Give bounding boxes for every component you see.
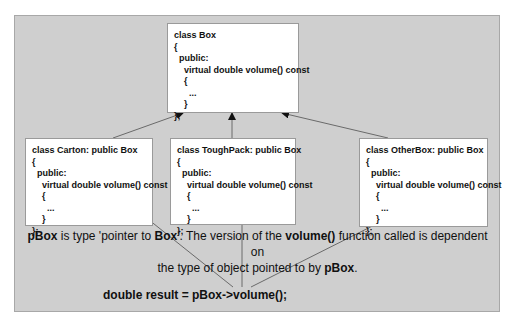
- caption-text: '. The version of the: [177, 229, 285, 243]
- code-line: {: [174, 76, 298, 88]
- code-line: {: [366, 157, 487, 169]
- term-box: Box: [155, 229, 178, 243]
- code-line: class Box: [174, 30, 298, 42]
- code-line: {: [177, 191, 295, 203]
- code-line: ...: [366, 203, 487, 215]
- class-box-toughpack: class ToughPack: public Box { public: vi…: [170, 138, 296, 225]
- term-pbox: pBox: [324, 261, 354, 275]
- code-line: public:: [174, 53, 298, 65]
- term-pbox: pBox: [28, 229, 58, 243]
- code-line: virtual double volume() const: [366, 180, 487, 192]
- caption-text: .: [354, 261, 357, 275]
- code-line: }: [174, 99, 298, 111]
- code-line: ...: [32, 203, 152, 215]
- code-line: public:: [32, 168, 152, 180]
- code-line: }: [366, 214, 487, 226]
- caption-line-1: pBox is type 'pointer to Box'. The versi…: [20, 228, 495, 260]
- code-line: ...: [174, 88, 298, 100]
- class-box-base: class Box { public: virtual double volum…: [167, 23, 299, 113]
- call-statement: double result = pBox->volume();: [103, 288, 287, 302]
- code-line: {: [32, 157, 152, 169]
- class-box-carton: class Carton: public Box { public: virtu…: [25, 138, 153, 226]
- code-line: }: [32, 214, 152, 226]
- explanation-caption: pBox is type 'pointer to Box'. The versi…: [20, 228, 495, 276]
- code-line: virtual double volume() const: [32, 180, 152, 192]
- code-line: ...: [177, 203, 295, 215]
- caption-line-2: the type of object pointed to by pBox.: [20, 260, 495, 276]
- code-line: }: [177, 214, 295, 226]
- caption-text: is type 'pointer to: [58, 229, 155, 243]
- code-line: {: [174, 42, 298, 54]
- code-line: class Carton: public Box: [32, 145, 152, 157]
- code-line: };: [174, 111, 298, 123]
- code-line: {: [177, 157, 295, 169]
- caption-text: the type of object pointed to by: [157, 261, 324, 275]
- class-box-otherbox: class OtherBox: public Box { public: vir…: [359, 138, 488, 227]
- code-line: public:: [177, 168, 295, 180]
- code-line: class OtherBox: public Box: [366, 145, 487, 157]
- code-line: public:: [366, 168, 487, 180]
- code-line: virtual double volume() const: [174, 65, 298, 77]
- code-line: class ToughPack: public Box: [177, 145, 295, 157]
- term-volume: volume(): [285, 229, 335, 243]
- code-line: {: [366, 191, 487, 203]
- code-line: virtual double volume() const: [177, 180, 295, 192]
- code-line: {: [32, 191, 152, 203]
